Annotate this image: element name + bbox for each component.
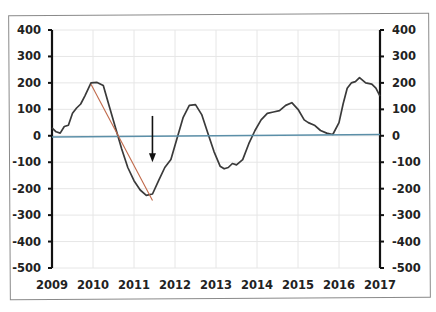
left-tick-label: 100 bbox=[17, 102, 41, 116]
right-tick-label: 400 bbox=[392, 23, 416, 37]
right-tick-label: -200 bbox=[392, 182, 421, 196]
x-tick-label: 2017 bbox=[364, 278, 396, 292]
left-tick-label: -500 bbox=[12, 261, 41, 275]
left-tick-label: -300 bbox=[12, 208, 41, 222]
x-tick-label: 2016 bbox=[323, 278, 355, 292]
x-axis: 200920102011201220132014201520162017 bbox=[36, 278, 396, 292]
right-tick-label: -500 bbox=[392, 261, 421, 275]
right-tick-label: 100 bbox=[392, 102, 416, 116]
x-tick-label: 2012 bbox=[159, 278, 191, 292]
left-tick-label: 400 bbox=[17, 23, 41, 37]
left-tick-label: -200 bbox=[12, 182, 41, 196]
right-tick-label: 200 bbox=[392, 76, 416, 90]
right-tick-label: 0 bbox=[392, 129, 400, 143]
x-tick-label: 2014 bbox=[241, 278, 273, 292]
left-tick-label: -400 bbox=[12, 235, 41, 249]
grid-lines bbox=[52, 30, 380, 268]
right-y-axis: 4003002001000-100-200-300-400-500 bbox=[380, 23, 421, 275]
left-y-axis: 4003002001000-100-200-300-400-500 bbox=[12, 23, 52, 275]
x-tick-label: 2010 bbox=[77, 278, 109, 292]
right-tick-label: 300 bbox=[392, 49, 416, 63]
right-tick-label: -100 bbox=[392, 155, 421, 169]
decline-trend-line bbox=[91, 84, 153, 200]
x-tick-label: 2015 bbox=[282, 278, 314, 292]
annotations bbox=[149, 116, 156, 162]
left-tick-label: -100 bbox=[12, 155, 41, 169]
line-chart: 4003002001000-100-200-300-400-500 400300… bbox=[0, 0, 436, 312]
left-tick-label: 200 bbox=[17, 76, 41, 90]
arrow-head-icon bbox=[149, 153, 156, 162]
right-tick-label: -300 bbox=[392, 208, 421, 222]
left-tick-label: 0 bbox=[33, 129, 41, 143]
left-tick-label: 300 bbox=[17, 49, 41, 63]
right-tick-label: -400 bbox=[392, 235, 421, 249]
x-tick-label: 2013 bbox=[200, 278, 232, 292]
x-tick-label: 2009 bbox=[36, 278, 68, 292]
x-tick-label: 2011 bbox=[118, 278, 150, 292]
